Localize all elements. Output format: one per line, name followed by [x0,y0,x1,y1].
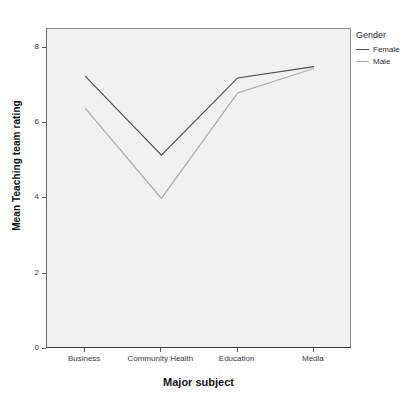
x-tick-label: Media [253,354,373,363]
legend-line-swatch [356,61,369,62]
y-axis-tick: 6 [0,122,46,123]
legend-item-label: Female [373,45,400,54]
legend-item-label: Male [373,57,390,66]
legend-item-female: Female [356,44,414,55]
y-tick-label: 2 [35,267,39,278]
legend-item-male: Male [356,56,414,67]
y-axis-tick: 2 [0,273,46,274]
y-tick-label: 6 [35,116,39,127]
y-tick-label: 0 [35,342,39,353]
y-axis-tick: 0 [0,348,46,349]
x-tick-mark [84,348,85,352]
y-axis-tick: 4 [0,197,46,198]
x-tick-mark [313,348,314,352]
plot-lines [47,29,352,349]
y-tick-label: 8 [35,41,39,52]
x-tick-mark [237,348,238,352]
x-axis-title: Major subject [46,376,351,388]
legend-title: Gender [356,30,414,40]
legend: Gender FemaleMale [356,30,414,67]
series-line-male [85,69,314,199]
x-tick-mark [160,348,161,352]
y-tick-label: 4 [35,191,39,202]
legend-entries: FemaleMale [356,44,414,67]
legend-line-swatch [356,49,369,50]
y-axis-title: Mean Teaching team rating [11,76,22,256]
y-axis-tick: 8 [0,47,46,48]
y-tick-mark [42,348,46,349]
plot-area [46,28,351,348]
line-chart-figure: Mean Teaching team rating 02468 Business… [0,0,414,399]
